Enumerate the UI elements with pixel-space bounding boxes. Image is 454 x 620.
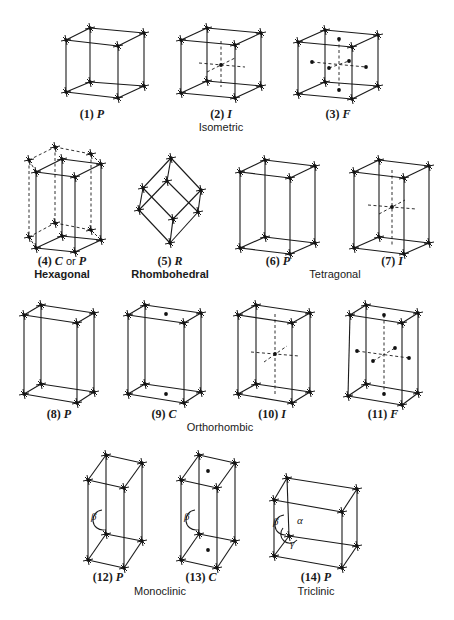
lattice-label-1: (1) P <box>80 107 104 122</box>
lattice-type-symbol: P <box>64 407 71 421</box>
lattice-6 <box>235 155 320 259</box>
beta-angle-label: β <box>91 510 96 522</box>
lattice-type-symbol: I <box>281 407 286 421</box>
lattice-number: (4) <box>38 254 55 268</box>
lattice-label-10: (10) I <box>258 407 286 422</box>
lattice-label-3: (3) F <box>325 107 350 122</box>
lattice-label-7: (7) I <box>381 254 403 269</box>
lattice-9 <box>123 300 206 408</box>
crystal-system-label-hexagonal: Hexagonal <box>34 268 90 280</box>
crystal-system-label-isometric: Isometric <box>199 121 244 133</box>
lattice-label-11: (11) F <box>368 407 398 422</box>
lattice-type-symbol: C <box>208 570 216 584</box>
lattice-11 <box>343 300 423 410</box>
lattice-type-symbol: I <box>227 107 232 121</box>
crystal-system-label-triclinic: Triclinic <box>298 585 335 597</box>
lattice-number: (8) <box>47 407 64 421</box>
lattice-number: (5) <box>157 254 174 268</box>
crystal-system-label-monoclinic: Monoclinic <box>134 585 186 597</box>
lattice-label-8: (8) P <box>47 407 71 422</box>
lattice-number: (3) <box>325 107 342 121</box>
alpha-angle-label: α <box>297 514 303 526</box>
bravais-lattice-figure: (1) P(2) I(3) F(4) C or P(5) R(6) P(7) I… <box>0 0 454 620</box>
or-text: or <box>63 255 79 267</box>
lattice-type-symbol: I <box>398 254 403 268</box>
lattice-number: (10) <box>258 407 281 421</box>
lattice-10 <box>233 300 315 408</box>
crystal-system-label-tetragonal: Tetragonal <box>309 268 360 280</box>
lattice-2 <box>176 23 266 103</box>
lattice-number: (7) <box>381 254 398 268</box>
lattice-8 <box>19 300 99 408</box>
lattice-7 <box>349 155 434 259</box>
lattice-drawings <box>0 0 454 620</box>
lattice-number: (12) <box>93 570 116 584</box>
beta-angle-label: β <box>273 515 278 527</box>
lattice-3 <box>293 25 383 104</box>
lattice-label-4: (4) C or P <box>38 254 86 269</box>
lattice-number: (1) <box>80 107 97 121</box>
lattice-type-symbol: R <box>174 254 182 268</box>
beta-angle-label: β <box>184 510 189 522</box>
lattice-5 <box>134 153 206 248</box>
lattice-label-9: (9) C <box>151 407 176 422</box>
lattice-type-symbol: P <box>283 254 290 268</box>
crystal-system-label-orthorhombic: Orthorhombic <box>187 421 254 433</box>
lattice-label-13: (13) C <box>185 570 216 585</box>
lattice-1 <box>61 23 149 103</box>
lattice-label-6: (6) P <box>266 254 290 269</box>
lattice-number: (2) <box>210 107 227 121</box>
lattice-label-2: (2) I <box>210 107 232 122</box>
lattice-number: (6) <box>266 254 283 268</box>
lattice-type-symbol-alt: P <box>79 254 86 268</box>
lattice-type-symbol: F <box>390 407 398 421</box>
lattice-number: (9) <box>151 407 168 421</box>
lattice-number: (11) <box>368 407 390 421</box>
lattice-type-symbol: C <box>55 254 63 268</box>
lattice-number: (14) <box>301 570 324 584</box>
lattice-4 <box>24 142 106 257</box>
lattice-type-symbol: C <box>168 407 176 421</box>
lattice-type-symbol: P <box>324 570 331 584</box>
lattice-number: (13) <box>185 570 208 584</box>
lattice-type-symbol: P <box>97 107 104 121</box>
lattice-type-symbol: F <box>342 107 350 121</box>
crystal-system-label-rhombohedral: Rhombohedral <box>131 268 209 280</box>
lattice-label-14: (14) P <box>301 570 331 585</box>
lattice-type-symbol: P <box>116 570 123 584</box>
lattice-14 <box>269 473 362 573</box>
lattice-label-5: (5) R <box>157 254 182 269</box>
lattice-label-12: (12) P <box>93 570 123 585</box>
gamma-angle-label: γ <box>290 537 294 549</box>
